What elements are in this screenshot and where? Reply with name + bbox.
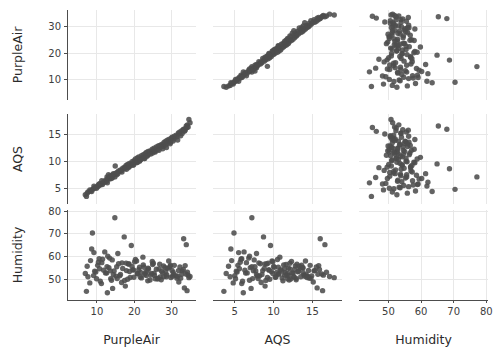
data-point — [99, 178, 104, 183]
data-point — [423, 62, 428, 67]
data-point — [228, 80, 233, 85]
data-point — [398, 130, 403, 135]
data-point — [367, 180, 372, 185]
data-point — [275, 257, 280, 262]
data-point — [410, 178, 415, 183]
data-point — [314, 15, 319, 20]
data-point — [388, 18, 393, 23]
data-point — [404, 174, 409, 179]
data-point — [113, 163, 118, 168]
data-point — [373, 175, 378, 180]
data-point — [247, 254, 252, 259]
data-point — [398, 154, 403, 159]
data-point — [370, 14, 375, 19]
data-point — [99, 260, 104, 265]
x-tick-label: 20 — [128, 306, 141, 317]
data-point — [403, 44, 408, 49]
data-point — [399, 51, 404, 56]
data-point — [394, 160, 399, 165]
data-point — [405, 141, 410, 146]
data-point — [125, 277, 130, 282]
data-point — [289, 259, 294, 264]
data-point — [382, 19, 387, 24]
data-point — [170, 138, 175, 143]
data-point — [271, 264, 276, 269]
data-point — [231, 230, 236, 235]
data-point — [88, 258, 93, 263]
data-point — [112, 215, 117, 220]
data-point — [241, 69, 246, 74]
data-point — [224, 271, 229, 276]
data-point — [236, 250, 241, 255]
data-point — [241, 290, 246, 295]
data-point — [388, 117, 393, 122]
data-point — [157, 262, 162, 267]
data-point — [388, 12, 393, 17]
data-point — [401, 58, 406, 63]
data-point — [261, 234, 266, 239]
data-point — [429, 189, 434, 194]
data-point — [414, 156, 419, 161]
data-point — [396, 77, 401, 82]
y-tick-label: 60 — [48, 251, 61, 262]
data-point — [221, 289, 226, 294]
data-point — [387, 186, 392, 191]
data-point — [381, 168, 386, 173]
data-point — [166, 258, 171, 263]
data-point — [184, 288, 189, 293]
y-tick-label: 15 — [48, 129, 61, 140]
data-point — [105, 180, 110, 185]
data-point — [408, 54, 413, 59]
y-tick-label: 10 — [48, 74, 61, 85]
data-point — [160, 270, 165, 275]
data-point — [262, 283, 267, 288]
data-point — [130, 162, 135, 167]
data-point — [308, 18, 313, 23]
data-point — [181, 236, 186, 241]
data-point — [383, 74, 388, 79]
data-point — [239, 256, 244, 261]
data-point — [447, 57, 452, 62]
data-point — [250, 276, 255, 281]
data-point — [184, 125, 189, 130]
data-point — [178, 133, 183, 138]
data-point — [398, 67, 403, 72]
data-point — [434, 52, 439, 57]
data-point — [89, 189, 94, 194]
data-point — [93, 269, 98, 274]
x-tick-label: 50 — [382, 306, 395, 317]
y-tick-label: 10 — [48, 156, 61, 167]
data-point — [140, 254, 145, 259]
data-point — [297, 264, 302, 269]
x-tick-label: 70 — [447, 306, 460, 317]
data-point — [376, 165, 381, 170]
scatter-plot-matrix: 10203051015506070801020305101550607080Pu… — [0, 0, 499, 360]
data-point — [392, 39, 397, 44]
data-point — [401, 148, 406, 153]
data-point — [388, 133, 393, 138]
data-point — [315, 272, 320, 277]
data-point — [110, 257, 115, 262]
data-point — [307, 263, 312, 268]
data-point — [291, 274, 296, 279]
data-point — [144, 268, 149, 273]
data-point — [248, 286, 253, 291]
data-point — [405, 190, 410, 195]
data-point — [411, 38, 416, 43]
data-point — [267, 277, 272, 282]
data-point — [403, 156, 408, 161]
data-point — [332, 275, 337, 280]
data-point — [404, 129, 409, 134]
data-point — [424, 79, 429, 84]
data-point — [177, 264, 182, 269]
data-point — [408, 61, 413, 66]
data-point — [91, 183, 96, 188]
data-point — [302, 20, 307, 25]
y-tick-label: 5 — [55, 183, 61, 194]
data-point — [434, 161, 439, 166]
data-point — [244, 270, 249, 275]
x-tick-label: 60 — [415, 306, 428, 317]
column-axis-title-aqs: AQS — [264, 332, 290, 347]
data-point — [381, 81, 386, 86]
data-point — [129, 243, 134, 248]
